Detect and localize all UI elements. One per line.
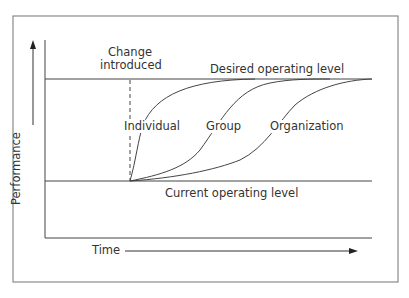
x-axis-arrowhead-icon — [349, 248, 358, 254]
outer-border — [13, 16, 398, 282]
diagram-canvas — [0, 0, 409, 298]
change-introduced-label: Change introduced — [100, 46, 160, 72]
desired-level-label: Desired operating level — [210, 63, 344, 76]
y-axis-label: Performance — [9, 132, 23, 205]
change-label-line2: introduced — [100, 59, 160, 72]
current-level-label: Current operating level — [165, 187, 298, 200]
x-axis-label: Time — [92, 244, 120, 257]
group-label: Group — [205, 120, 242, 133]
individual-label: Individual — [123, 120, 181, 133]
organization-label: Organization — [269, 120, 345, 133]
y-axis-arrowhead-icon — [30, 40, 36, 49]
diagram-figure: Change introduced Desired operating leve… — [0, 0, 409, 298]
